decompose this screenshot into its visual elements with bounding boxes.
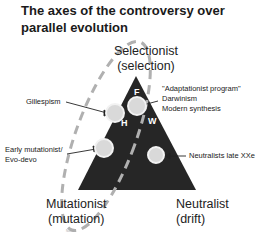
position-circle-neutralists (148, 147, 164, 163)
label-darwinism: Darwinism (162, 94, 241, 104)
marker-f: F (134, 87, 140, 97)
label-neutralists: Neutralists late XXe (189, 151, 255, 161)
label-gillespism: Gillespism (26, 97, 61, 107)
vertex-selectionist: Selectionist (selection) (114, 44, 178, 74)
label-modern-synthesis: Modern synthesis (162, 104, 241, 114)
label-adaptationist-group: "Adaptationist program" Darwinism Modern… (162, 84, 241, 114)
vertex-top-line-1: Selectionist (114, 44, 178, 59)
marker-h: H (121, 118, 128, 128)
marker-w: W (148, 116, 157, 126)
vertex-right-line-2: (drift) (176, 212, 229, 227)
label-evo-devo: Evo-devo (5, 155, 63, 165)
vertex-top-line-2: (selection) (114, 59, 178, 74)
triangle-diagram: F H W (0, 0, 273, 237)
vertex-neutralist: Neutralist (drift) (176, 197, 229, 227)
vertex-right-line-1: Neutralist (176, 197, 229, 212)
label-adaptationist: "Adaptationist program" (162, 84, 241, 94)
position-circle-early-mutationist (95, 139, 113, 157)
vertex-left-line-1: Mutationist (46, 197, 106, 212)
tiny-note: Noval (66, 229, 74, 233)
label-early-mutationist-group: Early mutationist/ Evo-devo (5, 145, 63, 165)
position-circle-adaptationist (128, 97, 146, 115)
label-early-mutationist: Early mutationist/ (5, 145, 63, 155)
vertex-mutationist: Mutationist (mutation) (46, 197, 106, 227)
vertex-left-line-2: (mutation) (46, 212, 106, 227)
